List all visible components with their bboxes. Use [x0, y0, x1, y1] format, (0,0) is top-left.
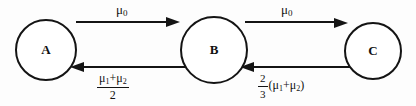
- mu-subscript: 0: [288, 8, 293, 18]
- node-a-label: A: [41, 42, 51, 57]
- fraction-right-group: (μ1+μ2): [268, 79, 305, 93]
- plus-sign: +: [283, 78, 290, 92]
- fraction-right-numerator: 2: [258, 72, 268, 87]
- node-c-label: C: [368, 43, 377, 58]
- fraction-right-denominator: 3: [258, 87, 268, 101]
- fraction-left-numerator: μ1+μ2: [97, 72, 129, 88]
- edge-label-a-to-b: μ0: [116, 3, 127, 18]
- mu-subscript: 0: [123, 8, 128, 18]
- edge-label-b-to-c: μ0: [281, 3, 292, 18]
- edge-b-to-c-arrowhead: [334, 18, 348, 28]
- fraction-left-denominator: 2: [97, 88, 129, 103]
- edge-label-b-to-a: μ1+μ2 2: [97, 72, 129, 103]
- fraction-left: μ1+μ2 2: [97, 72, 129, 103]
- mu-base: μ: [116, 2, 123, 17]
- close-paren: ): [300, 78, 304, 92]
- fraction-right: 2 3: [258, 72, 268, 100]
- node-b-label: B: [210, 42, 219, 57]
- edge-label-c-to-b: 2 3 (μ1+μ2): [258, 72, 304, 100]
- mu-base: μ: [281, 2, 288, 17]
- diagram-graphics: A B C: [0, 0, 416, 106]
- edge-a-to-b-arrowhead: [166, 17, 180, 27]
- diagram-canvas: A B C μ0 μ0 μ1+μ2 2 2 3 (μ1+μ2): [0, 0, 416, 106]
- mu2-subscript: 2: [123, 77, 127, 86]
